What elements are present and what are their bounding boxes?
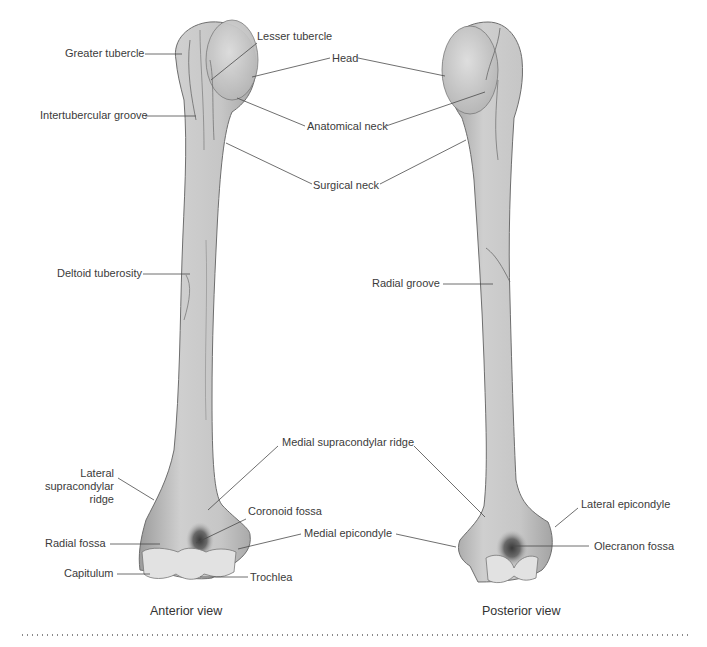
label-medial-supracondylar-ridge: Medial supracondylar ridge [282, 436, 414, 449]
label-capitulum: Capitulum [64, 567, 114, 580]
label-lateral-supracondylar-ridge: Lateral supracondylar ridge [40, 467, 114, 506]
label-surgical-neck: Surgical neck [313, 179, 379, 192]
label-olecranon-fossa: Olecranon fossa [594, 540, 674, 553]
label-line-1: Lateral [40, 467, 114, 480]
dotted-divider [20, 634, 690, 636]
label-trochlea: Trochlea [250, 571, 292, 584]
label-head: Head [332, 52, 358, 65]
label-medial-epicondyle: Medial epicondyle [304, 527, 392, 540]
label-radial-fossa: Radial fossa [45, 537, 106, 550]
label-radial-groove: Radial groove [372, 277, 440, 290]
anterior-humerus [139, 20, 258, 579]
posterior-humerus [442, 22, 552, 583]
label-intertubercular-groove: Intertubercular groove [40, 109, 148, 122]
label-greater-tubercle: Greater tubercle [65, 47, 144, 60]
label-deltoid-tuberosity: Deltoid tuberosity [57, 267, 142, 280]
label-line-3: ridge [40, 493, 114, 506]
label-line-2: supracondylar [40, 480, 114, 493]
caption-posterior-view: Posterior view [482, 604, 561, 618]
label-lesser-tubercle: Lesser tubercle [257, 30, 332, 43]
label-lateral-epicondyle: Lateral epicondyle [581, 498, 670, 511]
label-coronoid-fossa: Coronoid fossa [248, 505, 322, 518]
caption-anterior-view: Anterior view [150, 604, 222, 618]
label-anatomical-neck: Anatomical neck [307, 120, 388, 133]
